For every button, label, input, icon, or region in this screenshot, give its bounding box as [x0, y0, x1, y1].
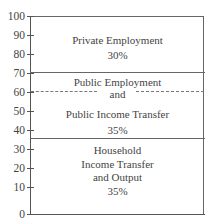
- segment-label-line: Public Income Transfer: [31, 107, 204, 121]
- boundary-70: [30, 72, 205, 73]
- segment-label-line: and: [31, 89, 204, 100]
- tick-label: 40: [0, 124, 25, 136]
- segment-value: 35%: [31, 124, 204, 138]
- segment-label: Private Employment: [31, 34, 204, 48]
- segment-value: 30%: [31, 49, 204, 63]
- tick-label: 100: [0, 10, 25, 22]
- boundary-35: [30, 138, 205, 139]
- tick-label: 30: [0, 143, 25, 155]
- segment-label-line: and Output: [31, 171, 204, 185]
- tick-label: 20: [0, 162, 25, 174]
- tick-label: 10: [0, 181, 25, 193]
- tick-100: [27, 16, 34, 17]
- segment-label-line: Income Transfer: [31, 158, 204, 172]
- tick-label: 90: [0, 29, 25, 41]
- tick-label: 0: [0, 208, 25, 219]
- x-axis: [30, 214, 205, 215]
- tick-label: 50: [0, 105, 25, 117]
- segment-label-line: Public Employment: [31, 75, 204, 89]
- tick-70: [27, 73, 34, 74]
- segment-label-line: Household: [31, 144, 204, 158]
- tick-label: 80: [0, 48, 25, 60]
- segment-private-employment: Private Employment 30%: [31, 34, 204, 62]
- segment-household: Household Income Transfer and Output 35%: [31, 144, 204, 198]
- cropped-title-fragment: [45, 0, 165, 3]
- tick-label: 70: [0, 67, 25, 79]
- tick-0: [27, 214, 30, 215]
- segment-public-employment-transfer: Public Employment and Public Income Tran…: [31, 75, 204, 138]
- segment-value: 35%: [31, 185, 204, 199]
- tick-label: 60: [0, 86, 25, 98]
